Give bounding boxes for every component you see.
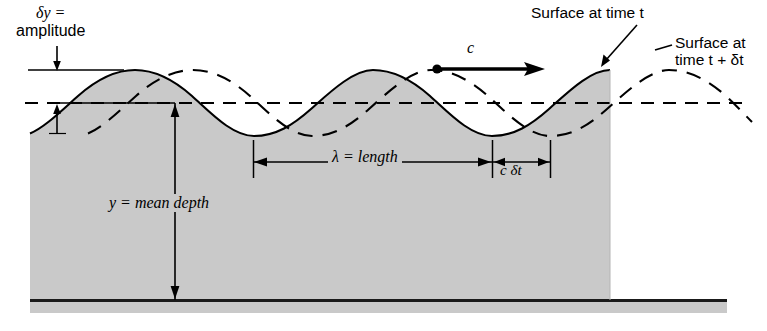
wave-speed-label: c	[467, 39, 474, 57]
mean-depth-label: y = mean depth	[105, 194, 213, 212]
surface-tdt-label-line1: Surface at	[675, 34, 746, 51]
figure-canvas: δy = amplitude Surface at time t Surface…	[0, 0, 767, 331]
amplitude-label: δy = amplitude	[16, 4, 85, 40]
amplitude-label-line2: amplitude	[16, 22, 85, 40]
distance-travelled-label: c δt	[500, 162, 522, 179]
surface-tdt-leader-line	[655, 45, 672, 50]
surface-tdt-label-line2: time t + δt	[675, 51, 746, 68]
surface-t-leader-shaft	[606, 25, 637, 60]
wavelength-label: λ = length	[328, 148, 402, 166]
surface-time-t-plus-dt-label: Surface at time t + δt	[675, 34, 746, 69]
water-body-fill	[30, 70, 610, 300]
amplitude-label-line1: δy =	[16, 4, 85, 22]
amplitude-arrow-lower-head	[53, 104, 61, 114]
surface-time-t-label: Surface at time t	[531, 4, 644, 21]
